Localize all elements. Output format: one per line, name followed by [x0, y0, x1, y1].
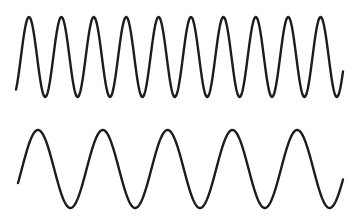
background — [0, 0, 360, 224]
wave-diagram — [0, 0, 360, 224]
